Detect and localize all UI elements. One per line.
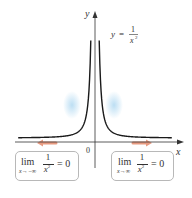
left-limit-numerator: 1	[42, 152, 54, 162]
right-approach-arrow	[133, 140, 152, 147]
x-axis-label: x	[175, 146, 181, 157]
function-label-lhs: y	[110, 29, 115, 39]
function-label-numerator: 1	[131, 25, 135, 34]
right-limit-subscript: x→∞	[117, 168, 130, 174]
left-limit-box: lim x→−∞ 1 x2 = 0	[15, 151, 79, 181]
right-limit-rhs: = 0	[151, 158, 164, 169]
left-approach-arrow	[37, 140, 56, 147]
function-label-denominator: x	[129, 36, 134, 45]
curve-right-branch	[99, 41, 172, 138]
right-limit-box: lim x→∞ 1 x2 = 0	[111, 151, 174, 181]
curve-left-branch	[18, 41, 91, 138]
left-limit-lim: lim	[21, 156, 34, 167]
left-limit-rhs: = 0	[57, 158, 70, 169]
right-limit-denominator: x2	[135, 164, 147, 174]
origin-label: 0	[86, 146, 90, 155]
function-label-equals: =	[119, 29, 124, 39]
function-label-exponent: 2	[135, 35, 138, 40]
y-axis-label: y	[84, 8, 90, 19]
right-limit-lim: lim	[118, 156, 131, 167]
right-limit-numerator: 1	[136, 152, 148, 162]
left-limit-denominator: x2	[41, 164, 53, 174]
left-glow	[63, 91, 81, 119]
y-axis-arrowhead	[93, 11, 98, 18]
right-glow	[105, 91, 123, 119]
x-axis-arrowhead	[177, 140, 184, 145]
left-limit-subscript: x→−∞	[19, 168, 36, 174]
